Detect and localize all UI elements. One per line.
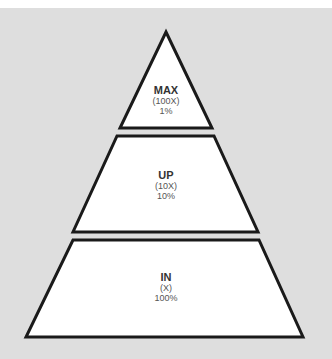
level-percent: 10% (0, 191, 332, 201)
level-percent: 1% (0, 106, 332, 116)
level-multiplier: (10X) (0, 181, 332, 191)
pyramid-diagram: MAX (100X) 1% UP (10X) 10% IN (X) 100% (0, 0, 332, 359)
pyramid-level-max-label: MAX (100X) 1% (0, 84, 332, 116)
level-title: IN (0, 271, 332, 283)
level-title: MAX (0, 84, 332, 96)
pyramid-level-up-label: UP (10X) 10% (0, 169, 332, 201)
pyramid-level-in-label: IN (X) 100% (0, 271, 332, 303)
level-percent: 100% (0, 293, 332, 303)
level-title: UP (0, 169, 332, 181)
level-multiplier: (X) (0, 283, 332, 293)
level-multiplier: (100X) (0, 96, 332, 106)
